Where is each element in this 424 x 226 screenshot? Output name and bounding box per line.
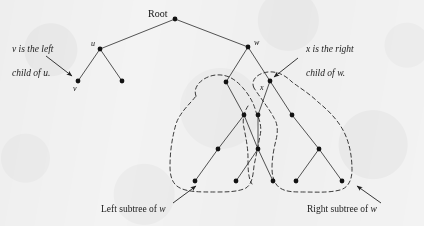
tree-node: [294, 179, 299, 184]
tree-figure: Root u v w x v is the left child of u. x…: [0, 0, 424, 226]
tree-edge: [175, 19, 248, 47]
tree-edge: [226, 82, 244, 115]
tree-node: [173, 17, 178, 22]
tree-edge: [78, 49, 100, 81]
tree-edge: [226, 47, 248, 82]
tree-node: [290, 113, 295, 118]
tree-node: [76, 79, 81, 84]
tree-node: [120, 79, 125, 84]
tree-edge: [236, 149, 258, 181]
right-caption-arrow: [357, 186, 381, 203]
tree-node: [340, 179, 345, 184]
left-subtree-caption: Left subtree of w: [101, 204, 166, 215]
tree-edge: [195, 149, 218, 181]
tree-node: [98, 47, 103, 52]
node-label-v: v: [73, 85, 77, 93]
node-label-x: x: [260, 84, 264, 92]
right-note-arrow: [274, 58, 298, 77]
left-child-annotation: v is the left child of u.: [12, 31, 53, 91]
right-note-line1: x is the right: [306, 44, 354, 54]
tree-node: [271, 179, 276, 184]
tree-edge: [100, 19, 175, 49]
tree-node: [256, 113, 261, 118]
right-subtree-caption-var: w: [371, 204, 377, 214]
right-child-annotation: x is the right child of w.: [306, 31, 354, 91]
node-label-w: w: [254, 39, 259, 47]
tree-edge: [218, 115, 244, 149]
tree-edge: [319, 149, 342, 181]
tree-node: [256, 147, 261, 152]
left-subtree-caption-text: Left subtree of: [101, 204, 159, 214]
tree-nodes: [76, 17, 345, 184]
tree-edge: [244, 115, 258, 149]
tree-node: [216, 147, 221, 152]
tree-edge: [270, 81, 292, 115]
left-note-line2: child of u.: [12, 68, 50, 78]
tree-node: [193, 179, 198, 184]
tree-edge: [258, 149, 273, 181]
right-subtree-caption: Right subtree of w: [307, 204, 377, 215]
tree-edge: [100, 49, 122, 81]
tree-node: [246, 45, 251, 50]
left-note-line1: v is the left: [12, 44, 53, 54]
tree-edge: [296, 149, 319, 181]
left-caption-arrow: [173, 186, 196, 203]
contour-inner-notch: [243, 106, 252, 184]
right-note-line2: child of w.: [306, 68, 345, 78]
left-subtree-contour: [170, 75, 261, 192]
tree-node: [234, 179, 239, 184]
node-label-root: Root: [148, 9, 167, 19]
tree-edges: [78, 19, 342, 181]
tree-edge: [292, 115, 319, 149]
tree-node: [317, 147, 322, 152]
right-subtree-caption-text: Right subtree of: [307, 204, 371, 214]
tree-edge: [248, 47, 270, 81]
node-label-u: u: [91, 40, 95, 48]
left-subtree-caption-var: w: [159, 204, 165, 214]
tree-svg: [0, 0, 424, 226]
tree-node: [242, 113, 247, 118]
tree-node: [268, 79, 273, 84]
tree-node: [224, 80, 229, 85]
